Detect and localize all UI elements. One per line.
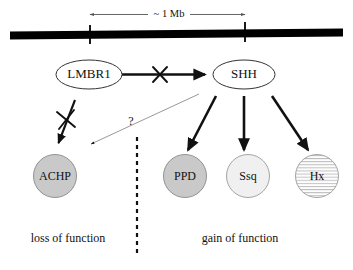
shh-to-ppd-arrow: [188, 96, 216, 150]
gain-of-function-caption: gain of function: [202, 231, 279, 245]
chromosome-bar-group: [10, 22, 343, 44]
lmbr1-to-shh-edge: [122, 67, 205, 82]
lmbr1-label: LMBR1: [67, 66, 110, 81]
scale-label: ~ 1 Mb: [154, 8, 185, 19]
phenotype-ssq[interactable]: Ssq: [227, 155, 270, 198]
loss-of-function-caption: loss of function: [31, 231, 106, 245]
lmbr1-to-achp-arrow: [59, 100, 76, 143]
gene-shh[interactable]: SHH: [213, 60, 275, 89]
ppd-label: PPD: [174, 169, 196, 183]
hx-label: Hx: [310, 169, 325, 183]
lmbr1-to-achp-edge: [57, 100, 75, 143]
question-mark-label: ?: [128, 114, 133, 128]
shh-label: SHH: [231, 66, 257, 81]
scale-bar-group: ~ 1 Mb: [90, 8, 245, 19]
shh-to-achp-question-arrow: [91, 94, 199, 144]
phenotype-ppd[interactable]: PPD: [164, 155, 207, 198]
shh-to-achp-edge: ?: [91, 94, 199, 144]
phenotype-achp[interactable]: ACHP: [34, 155, 77, 198]
shh-to-hx-arrow: [272, 96, 308, 150]
achp-label: ACHP: [39, 169, 71, 183]
diagram-svg: ~ 1 Mb ?: [0, 0, 353, 270]
shh-output-edges: [188, 96, 308, 150]
chromosome-bar: [10, 29, 343, 40]
ssq-label: Ssq: [239, 169, 256, 183]
diagram-canvas: ~ 1 Mb ?: [0, 0, 353, 270]
phenotype-hx[interactable]: Hx: [296, 155, 339, 198]
gene-lmbr1[interactable]: LMBR1: [56, 60, 122, 89]
